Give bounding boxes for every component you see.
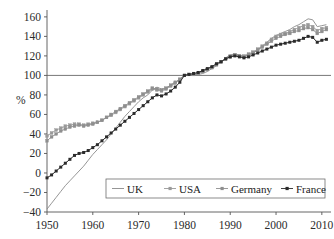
data-point [325,28,328,31]
data-point [210,65,213,68]
legend-swatch-marker [286,187,289,190]
data-point [183,74,186,77]
data-point [78,124,81,127]
data-point [101,119,104,122]
data-point [279,43,282,46]
data-point [215,62,218,65]
data-point [229,55,232,58]
legend-label: USA [179,183,201,195]
data-point [201,69,204,72]
data-point [123,104,126,107]
legend-swatch-marker [221,187,224,190]
data-point [110,113,113,116]
data-point [307,23,310,26]
data-point [100,139,103,142]
data-point [275,44,278,47]
data-point [293,40,296,43]
data-point [298,26,301,29]
data-point [151,87,154,90]
data-point [114,128,117,131]
data-point [73,125,76,128]
data-point [174,81,177,84]
data-point [110,131,113,134]
data-point [297,39,300,42]
data-point [78,152,81,155]
y-tick-label: 60 [30,108,42,120]
data-point [256,49,259,52]
data-point [46,135,49,138]
legend-label: UK [127,183,143,195]
data-point [55,129,58,132]
data-point [50,132,53,135]
x-tick-label: 2010 [310,219,333,231]
data-point [137,95,140,98]
data-point [64,162,67,165]
data-point [165,92,168,95]
data-point [298,29,301,32]
data-point [242,56,245,59]
data-point [206,67,209,70]
data-point [64,128,67,131]
data-point [284,33,287,36]
y-tick-label: 100 [24,69,42,81]
data-point [165,87,168,90]
data-point [311,25,314,28]
x-tick-label: 1960 [81,219,104,231]
x-tick-label: 1990 [219,219,242,231]
data-point [119,124,122,127]
data-point [169,90,172,93]
data-point [123,120,126,123]
data-point [105,135,108,138]
data-point [82,125,85,128]
data-point [261,46,264,49]
data-point [87,124,90,127]
data-point [82,151,85,154]
data-point [320,30,323,33]
data-point [265,48,268,51]
data-point [55,170,58,173]
data-point [311,36,314,39]
y-tick-label: −20 [23,186,41,198]
data-point [316,29,319,32]
data-point [128,101,131,104]
data-point [311,28,314,31]
y-axis-title: % [16,94,26,106]
y-tick-label: 40 [30,128,42,140]
legend-swatch-marker [169,187,172,190]
line-chart: −40−20020406080100120140160 195019601970… [0,0,334,239]
data-point [270,46,273,49]
data-point [91,123,94,126]
data-point [146,90,149,93]
data-point [169,84,172,87]
data-point [252,53,255,56]
data-point [284,42,287,45]
y-tick-label: 80 [30,89,42,101]
data-point [275,37,278,40]
y-tick-label: 0 [35,167,41,179]
data-point [307,35,310,38]
y-tick-label: 160 [24,11,42,23]
data-point [160,94,163,97]
data-point [174,86,177,89]
data-point [105,116,108,119]
data-point [46,139,49,142]
data-point [69,126,72,129]
data-point [64,125,67,128]
data-point [68,158,71,161]
data-point [151,96,154,99]
legend-label: France [296,183,326,195]
data-point [256,51,259,54]
data-point [197,71,200,74]
data-point [302,27,305,30]
chart-legend: UKUSAGermanyFrance [106,179,326,198]
data-point [96,121,99,124]
data-point [247,55,250,58]
data-point [178,81,181,84]
data-point [156,88,159,91]
data-point [307,26,310,29]
data-point [160,89,163,92]
x-tick-label: 2000 [265,219,288,231]
data-point [55,133,58,136]
chart-container: −40−20020406080100120140160 195019601970… [0,0,334,239]
data-point [87,149,90,152]
